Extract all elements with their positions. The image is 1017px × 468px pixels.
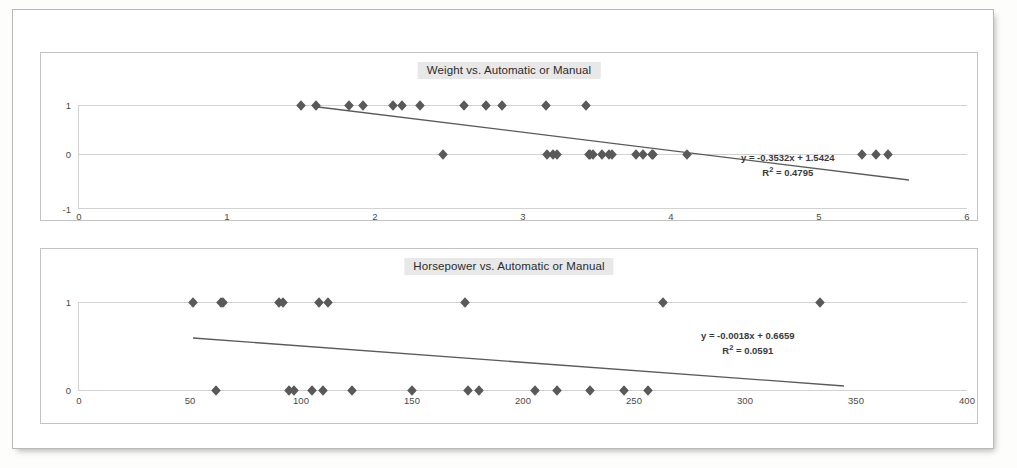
chart-horsepower-xtick-0: 0 [76,395,81,406]
chart-weight-title: Weight vs. Automatic or Manual [418,62,601,79]
chart-weight-ytick-1: 1 [53,100,71,111]
chart-weight-xtick-0: 0 [76,211,81,222]
chart-horsepower-r-value: = 0.0591 [733,345,773,356]
chart-horsepower-trendline-annotation: y = -0.0018x + 0.6659 R2 = 0.0591 [701,329,795,358]
chart-weight-xtick-5: 5 [816,211,821,222]
chart-weight-trendline-annotation: y = -0.3532x + 1.5424 R2 = 0.4795 [741,151,835,180]
chart-horsepower-equation: y = -0.0018x + 0.6659 [701,329,795,343]
chart-weight-xtick-1: 1 [224,211,229,222]
chart-weight-xtick-4: 4 [668,211,673,222]
chart-weight-xtick-2: 2 [372,211,377,222]
chart-horsepower-plot-area [41,249,977,423]
chart-weight-ytick-0: 0 [53,149,71,160]
chart-horsepower-xtick-250: 250 [626,395,642,406]
chart-horsepower-ytick-0: 0 [53,385,71,396]
chart-horsepower-xtick-150: 150 [404,395,420,406]
chart-horsepower-xtick-350: 350 [848,395,864,406]
chart-horsepower-r-squared: R2 = 0.0591 [701,343,795,358]
chart-weight-xtick-6: 6 [964,211,969,222]
chart-weight-xtick-3: 3 [520,211,525,222]
chart-weight-r-value: = 0.4795 [773,167,813,178]
chart-horsepower-xtick-50: 50 [185,395,196,406]
chart-horsepower-xtick-400: 400 [959,395,975,406]
chart-weight-r-squared: R2 = 0.4795 [741,165,835,180]
chart-weight-vs-automatic-or-manual[interactable]: Weight vs. Automatic or Manual y = -0.35… [40,52,978,221]
chart-horsepower-svg [41,249,977,423]
document-sheet: Weight vs. Automatic or Manual y = -0.35… [12,9,994,449]
chart-horsepower-ytick-1: 1 [53,297,71,308]
chart-horsepower-gridlines [78,302,967,391]
scanned-page-background: Weight vs. Automatic or Manual y = -0.35… [0,0,1017,468]
chart-horsepower-xtick-200: 200 [515,395,531,406]
chart-weight-ytick-neg1: -1 [53,204,71,215]
chart-horsepower-vs-automatic-or-manual[interactable]: Horsepower vs. Automatic or Manual y = -… [40,248,978,424]
chart-horsepower-xtick-100: 100 [293,395,309,406]
chart-weight-equation: y = -0.3532x + 1.5424 [741,151,835,165]
chart-horsepower-title: Horsepower vs. Automatic or Manual [404,258,613,275]
chart-horsepower-xtick-300: 300 [737,395,753,406]
